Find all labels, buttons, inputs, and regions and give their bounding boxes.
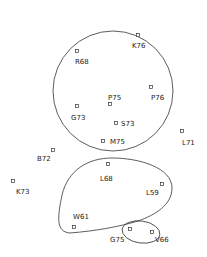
square-marker-icon — [75, 104, 78, 107]
data-point-g75: G75 — [110, 227, 132, 244]
point-label: W61 — [73, 213, 89, 221]
point-label: L71 — [182, 139, 195, 147]
data-point-w61: W61 — [72, 213, 88, 229]
square-marker-icon — [101, 139, 104, 142]
square-marker-icon — [108, 102, 111, 105]
point-label: L59 — [146, 189, 159, 197]
point-label: G73 — [71, 114, 85, 122]
data-point-r68: R68 — [75, 49, 89, 66]
data-point-k76: K76 — [132, 33, 146, 50]
data-point-m75: M75 — [101, 138, 125, 146]
data-point-s73: S73 — [114, 120, 134, 128]
point-label: S73 — [121, 120, 134, 128]
point-label: P75 — [108, 94, 121, 102]
square-marker-icon — [114, 121, 117, 124]
point-label: V66 — [155, 236, 169, 244]
data-point-l71: L71 — [180, 129, 194, 147]
cluster-diagram: K76R68P76P75G73S73M75L71B72L68K73L59W61G… — [0, 0, 207, 257]
data-point-k73: K73 — [11, 179, 29, 196]
data-point-l68: L68 — [100, 162, 113, 183]
square-marker-icon — [106, 162, 109, 165]
data-point-b72: B72 — [37, 148, 55, 163]
square-marker-icon — [180, 129, 183, 132]
point-label: K73 — [16, 188, 30, 196]
data-point-p76: P76 — [149, 85, 164, 102]
point-label: G75 — [110, 236, 124, 244]
point-label: K76 — [132, 42, 146, 50]
square-marker-icon — [51, 148, 54, 151]
upper-cluster-outline — [53, 31, 173, 151]
square-marker-icon — [149, 85, 152, 88]
square-marker-icon — [128, 227, 131, 230]
square-marker-icon — [11, 179, 14, 182]
data-point-p75: P75 — [108, 94, 121, 106]
square-marker-icon — [160, 182, 163, 185]
point-label: B72 — [37, 155, 51, 163]
point-label: R68 — [75, 58, 89, 66]
point-label: P76 — [151, 94, 165, 102]
square-marker-icon — [72, 225, 75, 228]
square-marker-icon — [150, 230, 153, 233]
data-point-g73: G73 — [71, 104, 85, 122]
square-marker-icon — [75, 49, 78, 52]
point-label: M75 — [110, 138, 125, 146]
data-point-l59: L59 — [146, 182, 164, 197]
point-label: L68 — [100, 175, 113, 183]
square-marker-icon — [136, 33, 139, 36]
